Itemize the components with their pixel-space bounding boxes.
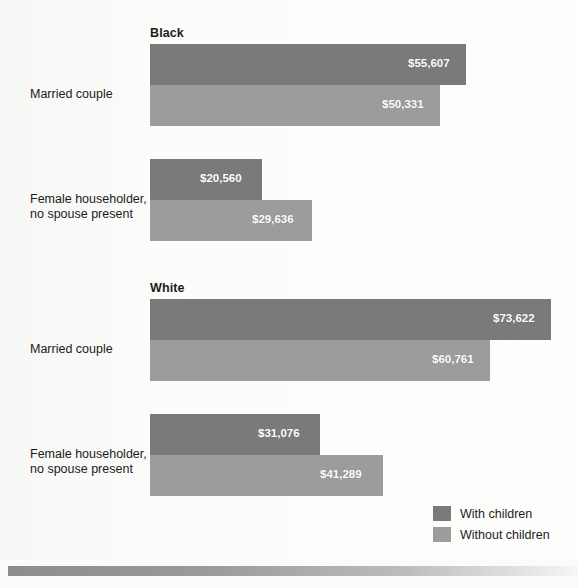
category-label-white-married-couple: Married couple: [30, 342, 113, 357]
bar-value-white-female-with-children: $31,076: [258, 427, 300, 439]
footer-rule: [8, 566, 578, 576]
plot-area: Black Married couple $55,607 $50,331 Fem…: [0, 0, 578, 560]
category-label-line2: no spouse present: [30, 207, 133, 221]
legend-label-without-children: Without children: [460, 528, 550, 542]
bar-value-black-married-without-children: $50,331: [382, 98, 424, 110]
legend-item-with-children: With children: [433, 504, 573, 523]
category-label-line2: no spouse present: [30, 462, 133, 476]
category-label-black-married-couple: Married couple: [30, 87, 113, 102]
bar-white-married-with-children: [150, 299, 551, 340]
group-title-white: White: [150, 281, 185, 295]
category-label-line1: Female householder,: [30, 192, 147, 206]
bar-value-white-female-without-children: $41,289: [320, 468, 362, 480]
legend-item-without-children: Without children: [433, 525, 573, 544]
bar-value-black-female-with-children: $20,560: [200, 172, 242, 184]
bar-value-white-married-without-children: $60,761: [432, 353, 474, 365]
bar-value-black-female-without-children: $29,636: [252, 213, 294, 225]
bar-value-black-married-with-children: $55,607: [408, 57, 450, 69]
category-label-line1: Female householder,: [30, 447, 147, 461]
category-label-black-female-householder: Female householder,no spouse present: [30, 192, 147, 222]
legend-label-with-children: With children: [460, 507, 532, 521]
category-label-white-female-householder: Female householder,no spouse present: [30, 447, 147, 477]
legend-swatch-with-children-icon: [433, 506, 451, 521]
chart-container: Black Married couple $55,607 $50,331 Fem…: [0, 0, 578, 588]
footer-margin: [0, 580, 578, 588]
group-title-black: Black: [150, 26, 184, 40]
legend: With children Without children: [433, 504, 573, 546]
legend-swatch-without-children-icon: [433, 527, 451, 542]
bar-value-white-married-with-children: $73,622: [493, 312, 535, 324]
